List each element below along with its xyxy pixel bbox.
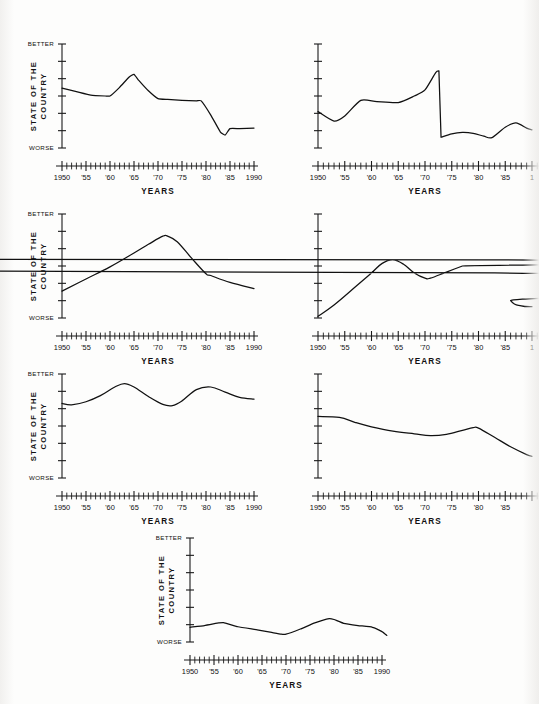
chart-panel-3: BETTERWORSESTATE OF THECOUNTRY1950'55'60… (0, 204, 294, 372)
x-axis-title: YEARS (269, 681, 303, 690)
x-axis-tick-label: 1950 (310, 343, 326, 352)
x-axis-tick-label: 1990 (374, 667, 390, 676)
x-axis-tick-label: '65 (393, 343, 403, 352)
y-axis-bottom-label: WORSE (157, 638, 182, 645)
x-axis-tick-label: '60 (367, 173, 377, 182)
x-axis-tick-label: '55 (81, 503, 91, 512)
x-axis-tick-label: 1 (530, 173, 534, 182)
y-axis-title-line2: COUNTRY (167, 566, 176, 613)
x-axis-tick-label: '75 (305, 667, 315, 676)
chart-panel-4: 1950'55'60'65'70'75'80'851YEARS (294, 204, 539, 372)
x-axis-tick-label: '65 (129, 503, 139, 512)
x-axis-tick-label: '85 (225, 503, 235, 512)
data-series-line (318, 71, 532, 138)
x-axis-tick-label: '80 (201, 343, 211, 352)
y-axis-title-line1: STATE OF THE (29, 391, 38, 462)
chart-panel-5: BETTERWORSESTATE OF THECOUNTRY1950'55'60… (0, 364, 294, 532)
y-axis-title-line1: STATE OF THE (157, 555, 166, 626)
x-axis-tick-label: '70 (420, 173, 430, 182)
x-axis-tick-label: '60 (105, 343, 115, 352)
x-axis-tick-label: '75 (447, 343, 457, 352)
x-axis-title: YEARS (141, 517, 175, 526)
x-axis-tick-label: '75 (177, 173, 187, 182)
x-axis-tick-label: 1990 (246, 173, 262, 182)
x-axis-tick-label: '60 (105, 503, 115, 512)
x-axis-tick-label: '60 (367, 503, 377, 512)
y-axis-top-label: BETTER (28, 210, 54, 217)
x-axis-tick-label: 1950 (310, 503, 326, 512)
y-axis-title-line1: STATE OF THE (29, 231, 38, 302)
x-axis-tick-label: '55 (340, 173, 350, 182)
x-axis-tick-label: '60 (233, 667, 243, 676)
x-axis-tick-label: 1 (530, 343, 534, 352)
x-axis-tick-label: '80 (201, 173, 211, 182)
x-axis-tick-label: '80 (201, 503, 211, 512)
x-axis-tick-label: '75 (177, 503, 187, 512)
y-axis-top-label: BETTER (28, 40, 54, 47)
data-series-line (62, 235, 254, 291)
x-axis-tick-label: '65 (393, 503, 403, 512)
x-axis-tick-label: '70 (153, 173, 163, 182)
chart-svg: BETTERWORSESTATE OF THECOUNTRY1950'55'60… (0, 364, 294, 532)
x-axis-tick-label: '70 (420, 343, 430, 352)
x-axis-title: YEARS (408, 517, 442, 526)
x-axis-tick-label: '80 (474, 173, 484, 182)
chart-panel-6: 1950'55'60'65'70'75'80'85YEARS (294, 364, 539, 532)
chart-svg: BETTERWORSESTATE OF THECOUNTRY1950'55'60… (0, 204, 294, 372)
y-axis-title: STATE OF THECOUNTRY (29, 231, 48, 302)
data-series-line (318, 416, 532, 456)
x-axis-tick-label: '85 (353, 667, 363, 676)
figure-page: BETTERWORSESTATE OF THECOUNTRY1950'55'60… (0, 0, 539, 704)
x-axis-tick-label: '75 (177, 343, 187, 352)
chart-panel-1: BETTERWORSESTATE OF THECOUNTRY1950'55'60… (0, 34, 294, 202)
x-axis-tick-label: 1990 (246, 503, 262, 512)
data-series-line (62, 384, 254, 406)
x-axis-tick-label: 1950 (54, 173, 70, 182)
y-axis-title: STATE OF THECOUNTRY (157, 555, 176, 626)
x-axis-tick-label: '65 (129, 173, 139, 182)
x-axis-tick-label: '75 (447, 503, 457, 512)
x-axis-tick-label: '65 (129, 343, 139, 352)
y-axis-bottom-label: WORSE (29, 314, 54, 321)
x-axis-title: YEARS (141, 187, 175, 196)
x-axis-tick-label: '70 (153, 343, 163, 352)
data-series-line (62, 74, 254, 135)
data-series-line (190, 619, 387, 636)
x-axis-tick-label: '80 (474, 343, 484, 352)
x-axis-tick-label: '55 (340, 503, 350, 512)
x-axis-tick-label: '85 (500, 173, 510, 182)
y-axis-top-label: BETTER (28, 370, 54, 377)
y-axis-title-line2: COUNTRY (39, 242, 48, 289)
y-axis-title-line1: STATE OF THE (29, 61, 38, 132)
y-axis-bottom-label: WORSE (29, 474, 54, 481)
chart-svg: BETTERWORSESTATE OF THECOUNTRY1950'55'60… (128, 528, 422, 704)
x-axis-tick-label: '70 (153, 503, 163, 512)
chart-panel-2: 1950'55'60'65'70'75'80'851YEARS (294, 34, 539, 202)
x-axis-tick-label: '70 (420, 503, 430, 512)
x-axis-tick-label: '60 (367, 343, 377, 352)
x-axis-tick-label: '55 (340, 343, 350, 352)
x-axis-tick-label: 1950 (182, 667, 198, 676)
x-axis-tick-label: 1990 (246, 343, 262, 352)
y-axis-top-label: BETTER (156, 534, 182, 541)
x-axis-tick-label: '55 (81, 173, 91, 182)
x-axis-tick-label: '80 (329, 667, 339, 676)
x-axis-tick-label: '70 (281, 667, 291, 676)
x-axis-tick-label: '75 (447, 173, 457, 182)
x-axis-tick-label: '60 (105, 173, 115, 182)
x-axis-tick-label: 1950 (54, 343, 70, 352)
y-axis-title-line2: COUNTRY (39, 402, 48, 449)
y-axis-title: STATE OF THECOUNTRY (29, 391, 48, 462)
x-axis-tick-label: 1950 (310, 173, 326, 182)
chart-svg: 1950'55'60'65'70'75'80'851YEARS (294, 34, 539, 202)
y-axis-title-line2: COUNTRY (39, 72, 48, 119)
x-axis-tick-label: '85 (225, 343, 235, 352)
chart-svg: 1950'55'60'65'70'75'80'85YEARS (294, 364, 539, 532)
x-axis-tick-label: '80 (474, 503, 484, 512)
x-axis-title: YEARS (408, 187, 442, 196)
x-axis-tick-label: '85 (500, 343, 510, 352)
x-axis-tick-label: '85 (225, 173, 235, 182)
x-axis-tick-label: '65 (257, 667, 267, 676)
x-axis-tick-label: '85 (500, 503, 510, 512)
chart-panel-7: BETTERWORSESTATE OF THECOUNTRY1950'55'60… (128, 528, 422, 704)
